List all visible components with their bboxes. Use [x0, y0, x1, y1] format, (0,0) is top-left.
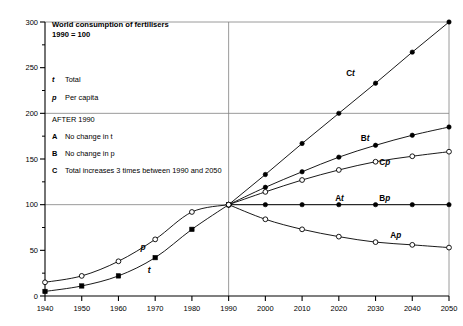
chart-title: World consumption of fertilisers1990 = 1…	[52, 20, 169, 40]
data-point-Bt-2040	[410, 133, 414, 137]
x-axis-label-2020: 2020	[319, 304, 359, 313]
data-point-Cp-2010	[300, 178, 305, 183]
legend-scenario-B: BNo change in p	[52, 150, 115, 157]
legend-symbol-t: t	[52, 76, 65, 83]
curve-label-Bt: Bt	[361, 135, 370, 143]
data-point-Ap-2030	[373, 240, 378, 245]
curve-label-At: At	[335, 195, 344, 203]
data-point-Ap-2020	[336, 234, 341, 239]
data-point-Cp-2050	[447, 149, 452, 154]
data-point-Bt-2050	[447, 125, 451, 129]
legend-text-p: Per capita	[65, 93, 98, 102]
legend-text-B: No change in p	[65, 149, 115, 158]
data-point-t-1980	[190, 227, 194, 231]
legend-symbol-p: p	[52, 94, 65, 101]
series-line-Ap	[229, 205, 449, 248]
x-axis-label-1970: 1970	[135, 304, 175, 313]
x-axis-label-1960: 1960	[98, 304, 138, 313]
legend-symbol-B: B	[52, 150, 65, 157]
data-point-t-1970	[153, 255, 157, 259]
data-point-At_Bp-2050	[447, 202, 451, 206]
data-point-At_Bp-2010	[300, 202, 304, 206]
data-point-At_Bp-2030	[373, 202, 377, 206]
fertiliser-consumption-chart	[0, 0, 463, 326]
data-point-p-1960	[116, 259, 121, 264]
data-point-t-1950	[80, 284, 84, 288]
data-point-Ct-2020	[337, 111, 341, 115]
legend-key-t: tTotal	[52, 76, 81, 83]
data-point-p-1940	[43, 280, 48, 285]
data-point-Ap-1990	[226, 202, 231, 207]
y-axis-label-200: 200	[6, 109, 38, 118]
data-point-Ap-2050	[447, 245, 452, 250]
legend-heading: AFTER 1990	[52, 115, 95, 124]
legend-symbol-A: A	[52, 133, 65, 140]
data-point-t-1960	[116, 274, 120, 278]
curve-label-Ct: Ct	[346, 70, 355, 78]
data-point-p-1950	[79, 274, 84, 279]
y-axis-label-150: 150	[6, 155, 38, 164]
y-axis-label-0: 0	[6, 292, 38, 301]
y-axis-label-250: 250	[6, 63, 38, 72]
legend-symbol-C: C	[52, 167, 65, 174]
curve-label-Cp: Cp	[379, 159, 390, 167]
data-point-Ap-2040	[410, 242, 415, 247]
legend-text-C: Total increases 3 times between 1990 and…	[65, 166, 222, 175]
legend-key-p: pPer capita	[52, 94, 98, 101]
data-point-Cp-2030	[373, 159, 378, 164]
series-Ap	[226, 202, 451, 250]
series-line-p	[45, 205, 229, 283]
legend-scenario-C: CTotal increases 3 times between 1990 an…	[52, 167, 222, 174]
data-point-Ct-2010	[300, 141, 304, 145]
y-axis-label-300: 300	[6, 18, 38, 27]
data-point-Cp-2040	[410, 154, 415, 159]
data-point-Cp-2020	[336, 168, 341, 173]
series-p	[43, 202, 231, 284]
legend-text-t: Total	[65, 75, 81, 84]
y-axis-label-100: 100	[6, 200, 38, 209]
curve-label-p: p	[140, 243, 145, 251]
data-point-p-1980	[190, 210, 195, 215]
data-point-Bt-2010	[300, 170, 304, 174]
data-point-Ct-2030	[373, 81, 377, 85]
x-axis-label-1950: 1950	[62, 304, 102, 313]
data-point-t-1940	[43, 289, 47, 293]
data-point-p-1970	[153, 237, 158, 242]
chart-root: 0501001502002503001940195019601970198019…	[0, 0, 463, 326]
legend-text-A: No change in t	[65, 132, 113, 141]
legend-scenario-A: ANo change in t	[52, 133, 113, 140]
data-point-At_Bp-2000	[263, 202, 267, 206]
curve-label-Bp: Bp	[379, 195, 390, 203]
x-axis-label-2030: 2030	[356, 304, 396, 313]
series-t	[43, 202, 231, 293]
x-axis-label-1990: 1990	[209, 304, 249, 313]
data-point-Ct-2000	[263, 172, 267, 176]
x-axis-label-2010: 2010	[282, 304, 322, 313]
chart-subtitle: 1990 = 100	[52, 30, 169, 40]
x-axis-label-1940: 1940	[25, 304, 65, 313]
data-point-Bt-2020	[337, 155, 341, 159]
data-point-Ct-2040	[410, 50, 414, 54]
data-point-Ap-2010	[300, 227, 305, 232]
chart-title-main: World consumption of fertilisers	[52, 20, 169, 30]
x-axis-label-2040: 2040	[392, 304, 432, 313]
curve-label-t: t	[148, 266, 151, 274]
x-axis-label-2050: 2050	[429, 304, 463, 313]
data-point-Bt-2030	[373, 143, 377, 147]
data-point-Ap-2000	[263, 217, 268, 222]
x-axis-label-1980: 1980	[172, 304, 212, 313]
y-axis-label-50: 50	[6, 246, 38, 255]
x-axis-label-2000: 2000	[245, 304, 285, 313]
data-point-Ct-2050	[447, 20, 451, 24]
data-point-Cp-2000	[263, 189, 268, 194]
curve-label-Ap: Ap	[390, 232, 401, 240]
data-point-Bt-2000	[263, 185, 267, 189]
data-point-At_Bp-2040	[410, 202, 414, 206]
